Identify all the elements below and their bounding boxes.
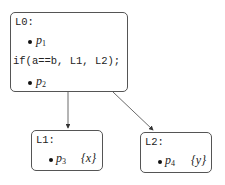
set-y: {y} (191, 153, 206, 168)
point-p2: p2 (36, 74, 46, 89)
node-l1: L1: p3 {x} (31, 130, 103, 171)
bullet-icon (28, 40, 32, 44)
node-l2-label: L2: (145, 136, 164, 148)
set-x: {x} (81, 151, 96, 166)
point-p4: p4 (165, 153, 175, 168)
point-p1: p1 (36, 33, 46, 48)
point-p3: p3 (56, 151, 66, 166)
bullet-icon (49, 158, 53, 162)
node-l0-label: L0: (15, 16, 34, 28)
bullet-icon (28, 81, 32, 85)
node-l1-label: L1: (36, 134, 55, 146)
node-l0: L0: p1 if(a==b, L1, L2); p2 (10, 12, 128, 92)
edge-l0-l2 (113, 92, 153, 130)
node-l2: L2: p4 {y} (140, 132, 212, 173)
if-statement: if(a==b, L1, L2); (13, 55, 120, 67)
bullet-icon (158, 160, 162, 164)
